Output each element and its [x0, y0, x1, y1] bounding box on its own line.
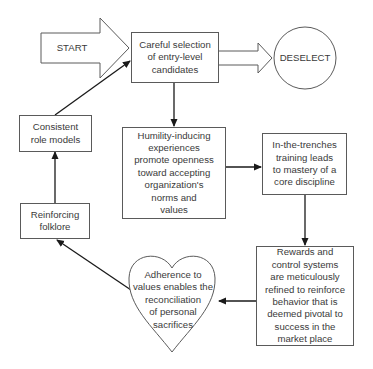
folklore-text: Reinforcing folklore [31, 209, 80, 234]
role-models-box: Consistent role models [19, 115, 92, 152]
deselect-text: DESELECT [280, 52, 331, 64]
selection-text: Careful selection of entry-level candida… [139, 39, 210, 76]
humility-text: Humility-inducing experiences promote op… [134, 130, 213, 217]
deselect-hollow-arrow [219, 43, 272, 73]
arrow-role-models-to-selection [55, 61, 130, 115]
deselect-label: DESELECT [274, 48, 336, 68]
humility-box: Humility-inducing experiences promote op… [122, 127, 226, 219]
start-label: START [44, 38, 100, 58]
trenches-box: In-the-trenches training leads to master… [262, 133, 347, 195]
adherence-label: Adherence to values enables the reconcil… [130, 268, 216, 332]
adherence-text: Adherence to values enables the reconcil… [133, 269, 213, 331]
rewards-text: Rewards and control systems are meticulo… [265, 246, 345, 345]
rewards-box: Rewards and control systems are meticulo… [256, 246, 354, 346]
role-models-text: Consistent role models [31, 121, 81, 146]
selection-box: Careful selection of entry-level candida… [131, 32, 219, 83]
folklore-box: Reinforcing folklore [20, 203, 90, 239]
trenches-text: In-the-trenches training leads to master… [272, 139, 337, 189]
start-text: START [57, 42, 88, 54]
arrow-adherence-to-folklore [57, 240, 131, 290]
